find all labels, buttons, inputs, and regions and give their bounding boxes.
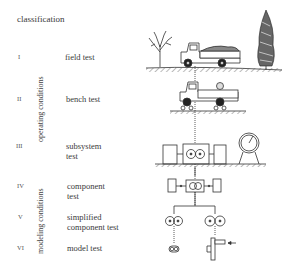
- test-classification-diagram: classification I II III IV V VI operatin…: [0, 0, 290, 272]
- field-test-illustration-icon: [146, 10, 282, 72]
- conifer-tree-icon: [258, 10, 275, 70]
- truck-icon: [181, 43, 240, 67]
- model-test-illustration-icon: [169, 238, 236, 260]
- truck-on-rig-icon: [180, 82, 238, 110]
- motor-box-icon: [163, 145, 177, 164]
- gauge-icon: [239, 133, 259, 164]
- lever-specimen-icon: [207, 238, 225, 260]
- bench-test-illustration-icon: [170, 82, 246, 114]
- illustrations: [0, 0, 290, 272]
- brake-box-icon: [214, 145, 226, 164]
- bare-tree-icon: [149, 31, 172, 67]
- subsystem-test-illustration-icon: [155, 133, 266, 176]
- component-test-illustration-icon: [168, 179, 221, 214]
- load-arrow-icon: [228, 242, 236, 245]
